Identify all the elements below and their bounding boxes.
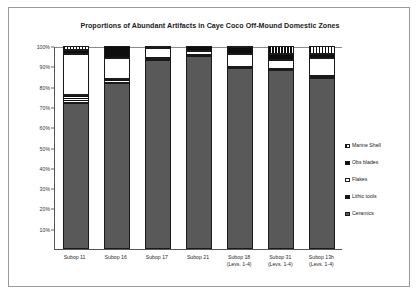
x-axis-tick-label: Subop 13h(Levs. 1-4) <box>301 254 342 267</box>
x-axis-tick-line1: Subop 21 <box>187 254 209 260</box>
x-axis-tick-line1: Subop 18 <box>228 254 250 260</box>
x-axis-tick-line2: (Levs. 1-4) <box>219 261 260 268</box>
bar-segment[interactable] <box>227 46 253 48</box>
y-axis-tick-label: 30% <box>40 186 50 192</box>
bar-column[interactable] <box>63 46 89 249</box>
x-axis-tick-line2: (Levs. 1-4) <box>301 261 342 268</box>
x-axis-tick-label: Subop 21 <box>177 254 218 261</box>
bar-segment[interactable] <box>268 60 294 69</box>
legend-item-label: Flakes <box>352 177 367 183</box>
x-axis: Subop 11Subop 16Subop 17Subop 21Subop 18… <box>54 252 342 286</box>
x-axis-tick-line2: (Levs. 1-4) <box>260 261 301 268</box>
bar-segment[interactable] <box>268 69 294 71</box>
bar-column[interactable] <box>227 46 253 249</box>
bar-segment[interactable] <box>227 68 253 249</box>
bar-segment[interactable] <box>309 46 335 54</box>
bar-column[interactable] <box>186 46 212 249</box>
y-axis-tick-label: 70% <box>40 105 50 111</box>
x-axis-tick-line1: Subop 16 <box>105 254 127 260</box>
bar-segment[interactable] <box>227 67 253 69</box>
bar-segment[interactable] <box>186 46 212 51</box>
y-axis-tick-label: 90% <box>40 64 50 70</box>
y-axis-tick-label: 80% <box>40 85 50 91</box>
white-empty-icon <box>345 178 350 183</box>
legend-item-label: Obs blades <box>352 160 378 166</box>
bar-segment[interactable] <box>309 58 335 76</box>
legend-item[interactable]: Obs blades <box>345 160 417 177</box>
bar-segment[interactable] <box>104 83 130 249</box>
x-axis-tick-label: Subop 11 <box>54 254 95 261</box>
x-axis-tick-line1: Subop 17 <box>146 254 168 260</box>
solid-black-icon <box>345 161 350 166</box>
bar-segment[interactable] <box>63 54 89 95</box>
y-axis: 100%90%80%70%60%50%40%30%20%10% <box>9 47 54 251</box>
legend-item[interactable]: Marine Shell <box>345 143 417 160</box>
legend-item-label: Marine Shell <box>352 143 381 149</box>
y-axis-tick-label: 10% <box>40 227 50 233</box>
chart-screenshot: Proportions of Abundant Artifacts in Cay… <box>0 0 418 294</box>
y-axis-tick-label: 40% <box>40 166 50 172</box>
legend-item[interactable]: Lithic tools <box>345 194 417 211</box>
vertical-hatch-icon <box>345 144 350 149</box>
x-axis-tick-label: Subop 16 <box>95 254 136 261</box>
x-axis-tick-label: Subop 17 <box>136 254 177 261</box>
x-axis-tick-line1: Subop 13h <box>309 254 334 260</box>
bar-segment[interactable] <box>186 55 212 57</box>
x-axis-tick-line1: Subop 31 <box>269 254 291 260</box>
bar-segment[interactable] <box>227 47 253 54</box>
bar-column[interactable] <box>268 46 294 249</box>
bar-segment[interactable] <box>145 46 171 48</box>
figure-frame: Proportions of Abundant Artifacts in Cay… <box>8 7 410 287</box>
legend-item-label: Lithic tools <box>352 194 377 200</box>
bar-segment[interactable] <box>63 46 89 50</box>
bar-segment[interactable] <box>186 51 212 55</box>
bar-segment[interactable] <box>104 79 130 82</box>
x-axis-tick-line1: Subop 11 <box>64 254 86 260</box>
bar-segment[interactable] <box>268 54 294 60</box>
x-axis-tick-label: Subop 18(Levs. 1-4) <box>219 254 260 267</box>
bar-segment[interactable] <box>268 46 294 54</box>
bar-column[interactable] <box>104 46 130 249</box>
bar-segment[interactable] <box>268 70 294 249</box>
bar-segment[interactable] <box>63 50 89 54</box>
solid-gray-icon <box>345 212 350 217</box>
bar-segment[interactable] <box>186 56 212 249</box>
bar-segment[interactable] <box>309 54 335 58</box>
legend-item[interactable]: Flakes <box>345 177 417 194</box>
y-axis-tick-label: 50% <box>40 146 50 152</box>
bar-column[interactable] <box>145 46 171 249</box>
bar-segment[interactable] <box>145 58 171 60</box>
horizontal-hatch-icon <box>345 195 350 200</box>
x-axis-tick-label: Subop 31(Levs. 1-4) <box>260 254 301 267</box>
bar-segment[interactable] <box>104 46 130 58</box>
y-axis-tick-label: 20% <box>40 206 50 212</box>
bar-segment[interactable] <box>104 58 130 79</box>
bar-segment[interactable] <box>227 54 253 67</box>
bar-segment[interactable] <box>145 60 171 249</box>
legend-item[interactable]: Ceramics <box>345 211 417 228</box>
bar-segment[interactable] <box>63 103 89 249</box>
chart-legend: Marine ShellObs bladesFlakesLithic tools… <box>345 143 417 228</box>
bar-segment[interactable] <box>309 78 335 249</box>
plot-area <box>54 47 342 250</box>
bar-segment[interactable] <box>145 48 171 58</box>
y-axis-tick-label: 60% <box>40 125 50 131</box>
bar-column[interactable] <box>309 46 335 249</box>
bar-segment[interactable] <box>309 76 335 78</box>
plot-inner <box>55 47 342 249</box>
legend-item-label: Ceramics <box>352 211 374 217</box>
y-axis-tick-label: 100% <box>37 44 50 50</box>
chart-title: Proportions of Abundant Artifacts in Cay… <box>9 22 411 30</box>
bar-segment[interactable] <box>63 95 89 103</box>
